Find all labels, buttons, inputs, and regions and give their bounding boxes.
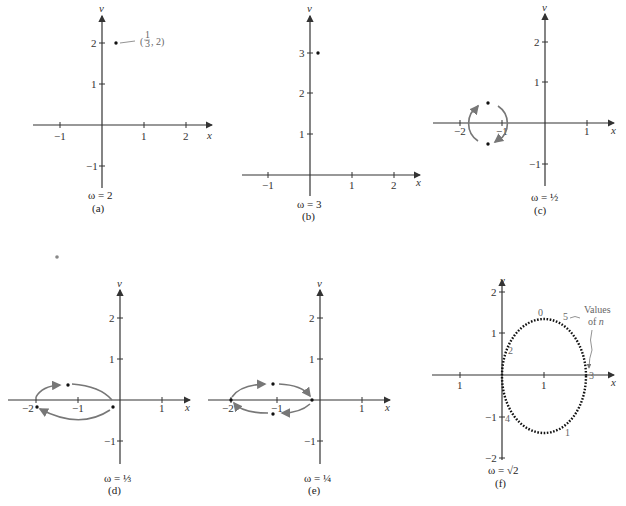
panel-b: −112 xv 321 ω = 3 (b) xyxy=(242,2,421,223)
panel-caption: (d) xyxy=(108,484,121,497)
svg-text:v: v xyxy=(99,2,104,14)
point-annotation: ( xyxy=(140,36,144,48)
svg-text:1: 1 xyxy=(541,379,547,391)
svg-text:−1: −1 xyxy=(72,402,84,414)
svg-text:2: 2 xyxy=(491,286,497,298)
panel-caption: (b) xyxy=(302,210,315,223)
panel-caption: (f) xyxy=(495,477,506,490)
svg-text:0: 0 xyxy=(538,307,543,318)
svg-text:x: x xyxy=(610,376,616,388)
svg-text:−2: −2 xyxy=(222,402,234,414)
svg-text:1: 1 xyxy=(359,402,365,414)
svg-text:of n: of n xyxy=(588,316,604,327)
svg-text:v: v xyxy=(317,277,322,289)
figure-canvas: −112 xv 21−1 ( 13 , 2) ω = 2 (a) −112 xv… xyxy=(0,0,626,506)
svg-text:1: 1 xyxy=(309,353,315,365)
svg-text:1: 1 xyxy=(457,379,463,391)
svg-text:1: 1 xyxy=(91,78,97,90)
svg-text:x: x xyxy=(206,129,212,141)
omega-label: ω = ½ xyxy=(531,191,558,203)
svg-text:2: 2 xyxy=(299,87,305,99)
svg-text:−1: −1 xyxy=(54,130,66,142)
svg-text:v: v xyxy=(307,2,312,14)
svg-text:−1: −1 xyxy=(271,402,283,414)
svg-text:v: v xyxy=(117,277,122,289)
svg-text:3: 3 xyxy=(299,47,305,59)
svg-text:2: 2 xyxy=(91,37,97,49)
panel-c: −2−11 xv 21−1 ω = ½ (c) xyxy=(433,1,616,217)
svg-text:x: x xyxy=(384,401,390,413)
panel-caption: (a) xyxy=(92,202,105,215)
svg-text:1: 1 xyxy=(109,353,115,365)
omega-label: ω = ¼ xyxy=(304,472,331,484)
omega-label: ω = 3 xyxy=(297,198,322,210)
svg-text:−1: −1 xyxy=(304,435,316,447)
panel-a: −112 xv 21−1 ( 13 , 2) ω = 2 (a) xyxy=(33,2,212,215)
svg-text:4: 4 xyxy=(505,413,510,424)
panel-d: −2−11 xv 21−1 ω = ⅓ (d) xyxy=(8,277,190,497)
svg-text:3: 3 xyxy=(145,38,150,49)
speck xyxy=(55,255,59,259)
svg-text:1: 1 xyxy=(141,130,147,142)
svg-text:2: 2 xyxy=(534,36,540,48)
svg-text:, 2): , 2) xyxy=(151,36,164,48)
svg-text:1: 1 xyxy=(491,327,497,339)
svg-text:2: 2 xyxy=(508,345,513,356)
svg-text:−1: −1 xyxy=(104,435,116,447)
svg-text:Values: Values xyxy=(584,304,611,315)
svg-text:2: 2 xyxy=(391,179,397,191)
svg-text:−1: −1 xyxy=(485,411,497,423)
svg-text:1: 1 xyxy=(299,128,305,140)
svg-text:x: x xyxy=(415,176,421,188)
omega-label: ω = ⅓ xyxy=(104,472,131,484)
svg-text:1: 1 xyxy=(159,402,165,414)
svg-text:1: 1 xyxy=(349,179,355,191)
svg-text:2: 2 xyxy=(109,312,115,324)
svg-text:−1: −1 xyxy=(262,179,274,191)
svg-text:5: 5 xyxy=(563,311,568,322)
svg-text:v: v xyxy=(542,1,547,13)
omega-label: ω = 2 xyxy=(88,189,112,201)
omega-label: ω = √2 xyxy=(488,464,518,476)
svg-text:x: x xyxy=(610,124,616,136)
panel-f: 11 xv 21−1−2 0 5 Values of n 2 3 4 1 ω =… xyxy=(432,274,616,490)
data-point xyxy=(114,41,117,44)
svg-text:3: 3 xyxy=(589,370,594,381)
svg-text:1: 1 xyxy=(565,427,570,438)
svg-text:−1: −1 xyxy=(86,160,98,172)
svg-text:−2: −2 xyxy=(454,125,466,137)
svg-text:2: 2 xyxy=(309,312,315,324)
svg-text:x: x xyxy=(184,401,190,413)
svg-text:−2: −2 xyxy=(485,452,497,464)
svg-text:v: v xyxy=(500,274,505,286)
svg-text:1: 1 xyxy=(534,76,540,88)
panel-caption: (c) xyxy=(534,204,547,217)
svg-text:1: 1 xyxy=(584,125,590,137)
svg-text:−1: −1 xyxy=(529,158,541,170)
svg-text:−2: −2 xyxy=(22,402,34,414)
panel-caption: (e) xyxy=(308,484,321,497)
panel-e: −2−11 xv 21−1 ω = ¼ (e) xyxy=(208,277,390,497)
svg-text:2: 2 xyxy=(183,130,189,142)
